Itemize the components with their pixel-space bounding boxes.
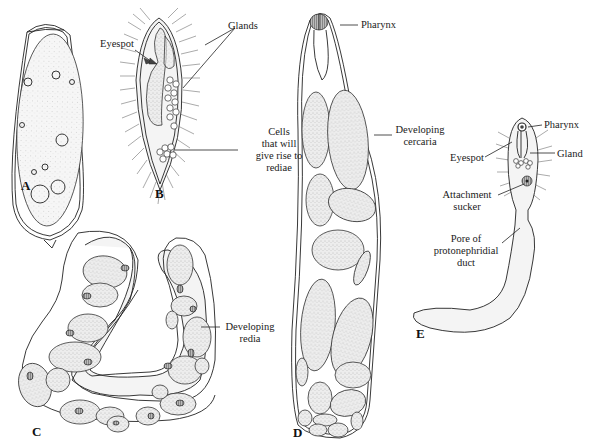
panel-c-sporocyst [14, 231, 220, 432]
label-protonephridial-pore: Pore of protonephridial duct [430, 233, 502, 269]
panel-label-c: C [32, 424, 41, 440]
label-eyespot-e: Eyespot [450, 152, 484, 164]
label-pharynx-d: Pharynx [361, 19, 396, 31]
panel-e-cercaria [413, 118, 555, 332]
label-glands: Glands [228, 20, 258, 32]
label-developing-cercaria: Developing cercaria [390, 124, 450, 148]
label-eyespot-b: Eyespot [100, 38, 134, 50]
label-gland-e: Gland [557, 148, 583, 160]
panel-label-d: D [293, 425, 302, 441]
label-developing-redia: Developing redia [220, 321, 280, 345]
panel-label-b: B [155, 186, 164, 202]
panel-label-a: A [21, 178, 30, 194]
panel-a-egg [12, 24, 86, 248]
label-pharynx-e: Pharynx [544, 119, 579, 131]
panel-b-miracidium [120, 8, 238, 204]
diagram-canvas [0, 0, 600, 447]
panel-d-redia [292, 13, 392, 438]
label-germ-cells: Cells that will give rise to rediae [242, 126, 316, 174]
label-attachment-sucker: Attachment sucker [436, 189, 498, 213]
panel-label-e: E [416, 326, 425, 342]
